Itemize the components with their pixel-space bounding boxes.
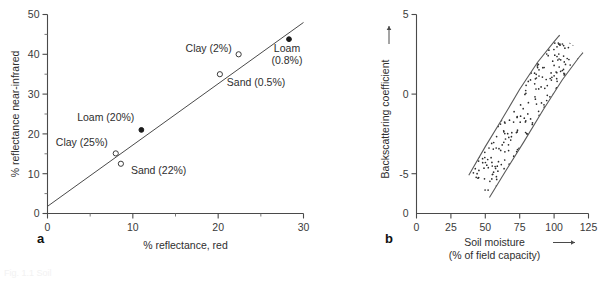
speckle-dot — [472, 23, 474, 25]
figure-container: 010203040500102030Sand (22%)Clay (25%)Lo… — [0, 0, 613, 286]
speckle-dot — [528, 16, 530, 18]
data-point-filled — [287, 37, 292, 42]
speckle-dot — [528, 64, 530, 66]
speckle-dot — [536, 58, 538, 60]
speckle-dot — [548, 177, 550, 179]
speckle-dot — [580, 44, 582, 46]
speckle-dot — [429, 118, 431, 120]
speckle-dot — [526, 67, 528, 69]
speckle-dot — [473, 35, 475, 37]
speckle-dot — [538, 110, 540, 112]
speckle-dot — [500, 102, 502, 104]
speckle-dot — [478, 160, 480, 162]
speckle-dot — [436, 108, 438, 110]
speckle-dot — [493, 79, 495, 81]
speckle-dot — [466, 33, 468, 35]
speckle-dot — [464, 86, 466, 88]
speckle-dot — [556, 80, 558, 82]
speckle-dot — [564, 167, 566, 169]
speckle-dot — [539, 42, 541, 44]
speckle-dot — [536, 156, 538, 158]
speckle-dot — [485, 90, 487, 92]
speckle-dot — [442, 24, 444, 26]
speckle-dot — [463, 34, 465, 36]
speckle-dot — [445, 31, 447, 33]
speckle-dot — [451, 111, 453, 113]
speckle-dot — [444, 72, 446, 74]
speckle-dot — [474, 168, 476, 170]
speckle-dot — [446, 58, 448, 60]
speckle-dot — [527, 198, 529, 200]
speckle-dot — [465, 175, 467, 177]
speckle-dot — [466, 185, 468, 187]
speckle-dot — [529, 205, 531, 207]
speckle-dot — [528, 102, 530, 104]
speckle-dot — [480, 136, 482, 138]
speckle-dot — [535, 73, 537, 75]
speckle-dot — [556, 46, 558, 48]
speckle-dot — [508, 150, 510, 152]
speckle-dot — [426, 81, 428, 83]
speckle-dot — [479, 120, 481, 122]
speckle-dot — [500, 205, 502, 207]
speckle-dot — [493, 142, 495, 144]
speckle-dot — [489, 34, 491, 36]
speckle-dot — [475, 121, 477, 123]
data-point-label: Sand (0.5%) — [227, 76, 285, 88]
y-tick-label: 30 — [28, 88, 40, 100]
speckle-dot — [436, 123, 438, 125]
speckle-dot — [480, 52, 482, 54]
speckle-dot — [434, 73, 436, 75]
speckle-dot — [488, 147, 490, 149]
data-point-filled — [139, 128, 144, 133]
speckle-dot — [443, 141, 445, 143]
speckle-dot — [515, 18, 517, 20]
speckle-dot — [447, 120, 449, 122]
speckle-dot — [492, 148, 494, 150]
speckle-dot — [447, 83, 449, 85]
speckle-dot — [438, 126, 440, 128]
speckle-dot — [474, 37, 476, 39]
speckle-dot — [561, 70, 563, 72]
speckle-dot — [500, 164, 502, 166]
speckle-dot — [525, 132, 527, 134]
speckle-dot — [550, 159, 552, 161]
speckle-dot — [541, 152, 543, 154]
speckle-dot — [430, 123, 432, 125]
speckle-dot — [427, 37, 429, 39]
speckle-dot — [532, 41, 534, 43]
speckle-dot — [577, 60, 579, 62]
speckle-dot — [545, 150, 547, 152]
speckle-dot — [431, 143, 433, 145]
speckle-dot — [499, 87, 501, 89]
speckle-dot — [516, 117, 518, 119]
speckle-dot — [535, 88, 537, 90]
speckle-dot — [471, 36, 473, 38]
figure-svg: 010203040500102030Sand (22%)Clay (25%)Lo… — [0, 0, 613, 286]
speckle-dot — [419, 143, 421, 145]
speckle-dot — [464, 195, 466, 197]
speckle-dot — [585, 142, 587, 144]
speckle-dot — [552, 167, 554, 169]
speckle-dot — [439, 67, 441, 69]
speckle-dot — [424, 142, 426, 144]
speckle-dot — [575, 44, 577, 46]
speckle-dot — [433, 177, 435, 179]
speckle-dot — [569, 196, 571, 198]
speckle-dot — [563, 163, 565, 165]
speckle-dot — [566, 106, 568, 108]
speckle-dot — [445, 111, 447, 113]
speckle-dot — [530, 173, 532, 175]
speckle-dot — [476, 78, 478, 80]
speckle-dot — [549, 188, 551, 190]
speckle-dot — [514, 93, 516, 95]
speckle-dot — [558, 122, 560, 124]
speckle-dot — [558, 210, 560, 212]
speckle-dot — [427, 174, 429, 176]
speckle-dot — [493, 51, 495, 53]
speckle-dot — [433, 188, 435, 190]
speckle-dot — [501, 26, 503, 28]
speckle-dot — [564, 140, 566, 142]
speckle-dot — [439, 123, 441, 125]
speckle-dot — [461, 140, 463, 142]
